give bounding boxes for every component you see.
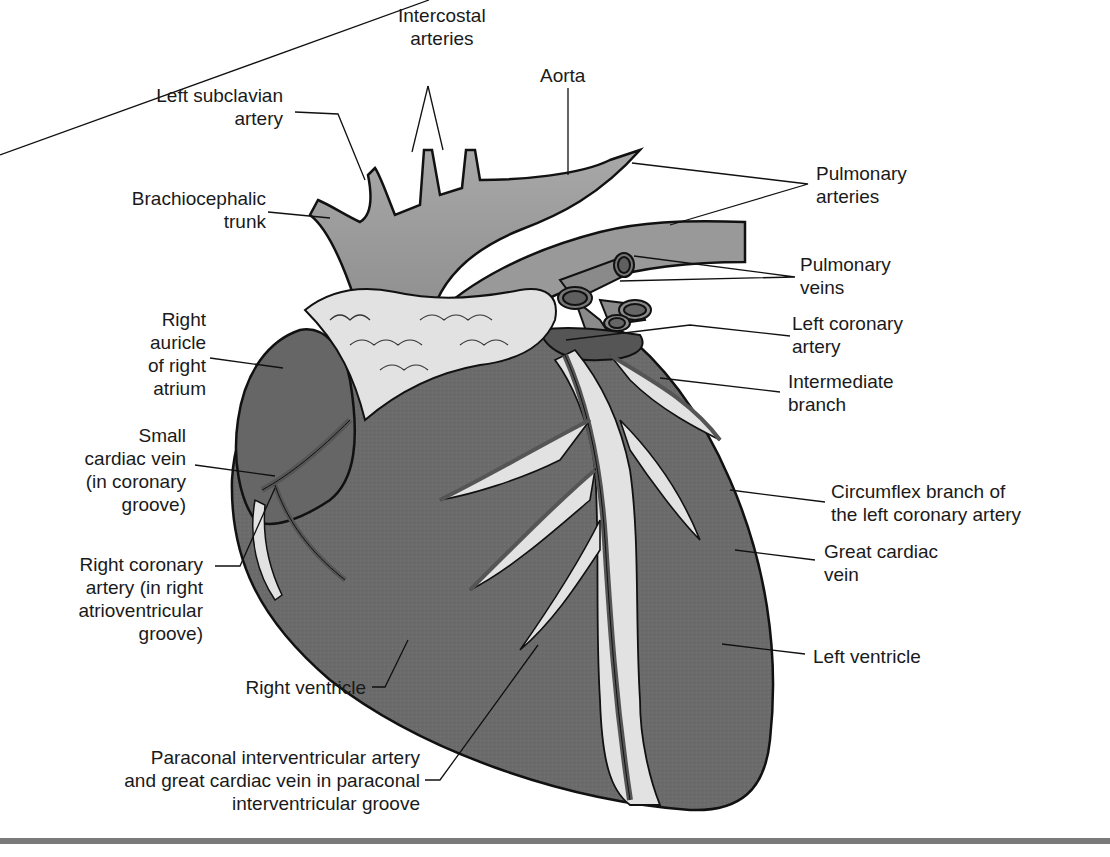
label-left-subclavian-artery: Left subclavian artery (128, 84, 283, 130)
label-paraconal-interventricular: Paraconal interventricular artery and gr… (30, 746, 420, 815)
bottom-rule (0, 838, 1110, 844)
label-right-auricle: Right auricle of right atrium (100, 308, 206, 400)
label-circumflex-branch: Circumflex branch of the left coronary a… (831, 480, 1021, 526)
label-right-ventricle: Right ventricle (180, 676, 366, 699)
label-aorta: Aorta (540, 64, 585, 87)
label-small-cardiac-vein: Small cardiac vein (in coronary groove) (40, 424, 186, 516)
label-brachiocephalic-trunk: Brachiocephalic trunk (96, 187, 266, 233)
label-great-cardiac-vein: Great cardiac vein (824, 540, 938, 586)
right-auricle (236, 329, 355, 524)
label-pulmonary-veins: Pulmonary veins (800, 253, 891, 299)
label-pulmonary-arteries: Pulmonary arteries (816, 162, 907, 208)
label-intermediate-branch: Intermediate branch (788, 370, 894, 416)
label-right-coronary-artery: Right coronary artery (in right atrioven… (20, 553, 203, 645)
label-left-coronary-artery: Left coronary artery (792, 312, 903, 358)
label-intercostal-arteries: Intercostal arteries (398, 4, 486, 50)
label-left-ventricle: Left ventricle (813, 645, 921, 668)
